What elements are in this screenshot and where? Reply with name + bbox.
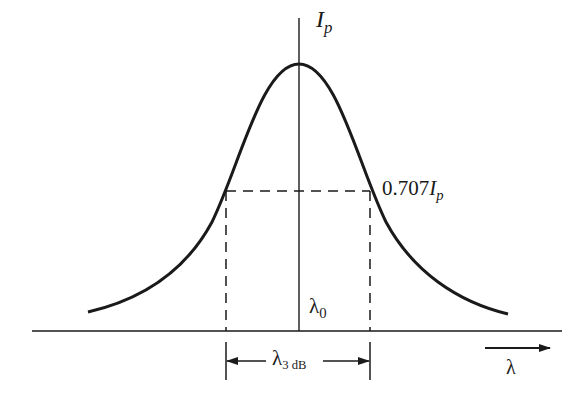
peak-symbol: I <box>316 6 324 32</box>
half-power-factor: 0.707 <box>382 176 429 200</box>
peak-label: Ip <box>316 6 332 33</box>
width-symbol: λ <box>272 346 282 370</box>
half-power-label: 0.707Ip <box>382 176 444 201</box>
diagram-canvas <box>0 0 586 397</box>
axis-symbol: λ <box>506 356 516 378</box>
center-subscript: 0 <box>319 305 326 321</box>
linewidth-label: λ3 dB <box>272 346 306 371</box>
center-symbol: λ <box>309 294 319 318</box>
half-power-subscript: p <box>436 187 443 203</box>
center-wavelength-label: λ0 <box>309 294 327 319</box>
peak-subscript: p <box>324 18 332 37</box>
width-subscript: 3 dB <box>282 358 306 372</box>
gaussian-curve <box>88 64 508 314</box>
wavelength-axis-label: λ <box>506 356 516 379</box>
